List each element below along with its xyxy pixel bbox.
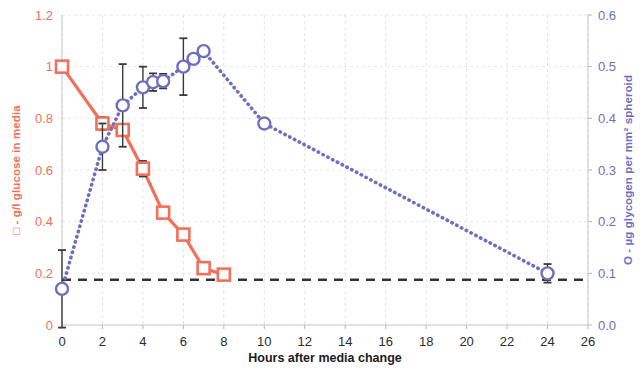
- ytick-label-right-0.3: 0.3: [598, 163, 616, 178]
- marker-square[interactable]: [218, 269, 230, 281]
- marker-square[interactable]: [177, 229, 189, 241]
- xtick-label-16: 16: [378, 334, 392, 349]
- xtick-label-10: 10: [257, 334, 271, 349]
- marker-circle[interactable]: [198, 45, 210, 57]
- xtick-label-18: 18: [419, 334, 433, 349]
- ytick-label-left-0.8: 0.8: [35, 111, 53, 126]
- xtick-label-6: 6: [180, 334, 187, 349]
- ytick-label-left-0.4: 0.4: [35, 214, 53, 229]
- marker-square[interactable]: [56, 61, 68, 73]
- ytick-label-left-0.2: 0.2: [35, 266, 53, 281]
- marker-square[interactable]: [137, 163, 149, 175]
- xtick-label-20: 20: [459, 334, 473, 349]
- axis-title-left: □ - g/l glucose in media: [10, 105, 22, 235]
- ytick-label-right-0.2: 0.2: [598, 214, 616, 229]
- xtick-label-2: 2: [99, 334, 106, 349]
- ytick-label-left-0: 0: [46, 318, 53, 333]
- ytick-label-right-0.0: 0.0: [598, 318, 616, 333]
- ytick-label-left-1: 1: [46, 59, 53, 74]
- marker-circle[interactable]: [56, 283, 68, 295]
- chart-figure: 0246810121416182022242600.20.40.60.811.2…: [0, 0, 640, 370]
- ytick-label-left-1.2: 1.2: [35, 8, 53, 23]
- xtick-label-12: 12: [298, 334, 312, 349]
- marker-circle[interactable]: [258, 118, 270, 130]
- xtick-label-4: 4: [139, 334, 146, 349]
- axis-title-right: O - µg glycogen per mm² spheroid: [622, 75, 634, 265]
- marker-circle[interactable]: [157, 75, 169, 87]
- dual-axis-line-chart: 0246810121416182022242600.20.40.60.811.2…: [0, 0, 640, 370]
- marker-square[interactable]: [157, 207, 169, 219]
- ytick-label-right-0.6: 0.6: [598, 8, 616, 23]
- axis-title-bottom: Hours after media change: [248, 351, 402, 365]
- xtick-label-8: 8: [220, 334, 227, 349]
- xtick-label-22: 22: [500, 334, 514, 349]
- xtick-label-24: 24: [540, 334, 554, 349]
- marker-circle[interactable]: [117, 99, 129, 111]
- xtick-label-0: 0: [58, 334, 65, 349]
- marker-circle[interactable]: [96, 141, 108, 153]
- ytick-label-right-0.5: 0.5: [598, 59, 616, 74]
- ytick-label-right-0.1: 0.1: [598, 266, 616, 281]
- xtick-label-14: 14: [338, 334, 352, 349]
- ytick-label-right-0.4: 0.4: [598, 111, 616, 126]
- xtick-label-26: 26: [581, 334, 595, 349]
- ytick-label-left-0.6: 0.6: [35, 163, 53, 178]
- marker-square[interactable]: [198, 262, 210, 274]
- marker-circle[interactable]: [542, 267, 554, 279]
